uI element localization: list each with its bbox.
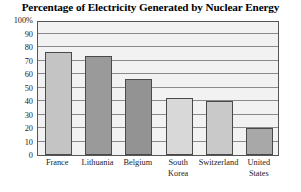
y-tick-label: 70: [25, 57, 33, 65]
y-tick-label: 30: [25, 111, 33, 119]
x-axis: FranceLithuaniaBelgiumSouthKoreaSwitzerl…: [37, 158, 279, 192]
bar-south-korea: [166, 98, 193, 155]
y-tick-label: 20: [25, 125, 33, 133]
y-tick-label: 0: [29, 152, 33, 160]
bar-belgium: [125, 79, 152, 155]
x-tick-label: Belgium: [118, 158, 158, 169]
y-tick-label: 80: [25, 44, 33, 52]
y-tick-label: 10: [25, 138, 33, 146]
bar-switzerland: [206, 101, 233, 155]
bar-chart-figure: Percentage of Electricity Generated by N…: [0, 0, 301, 192]
bar-lithuania: [85, 56, 112, 155]
x-tick-label: Switzerland: [198, 158, 238, 169]
y-axis: 0102030405060708090100%: [0, 21, 35, 156]
y-tick-label: 60: [25, 71, 33, 79]
bars-layer: [38, 22, 278, 155]
bar-united-states: [246, 128, 273, 155]
y-tick-label: 50: [25, 84, 33, 92]
chart-title: Percentage of Electricity Generated by N…: [0, 1, 301, 13]
x-tick-label: France: [37, 158, 77, 169]
bar-france: [45, 52, 72, 155]
x-tick-label: UnitedStates: [239, 158, 279, 179]
x-tick-label: SouthKorea: [158, 158, 198, 179]
x-tick-label: Lithuania: [77, 158, 117, 169]
y-tick-label: 40: [25, 98, 33, 106]
plot-area: [37, 21, 279, 156]
y-tick-label: 90: [25, 30, 33, 38]
y-tick-label: 100%: [14, 17, 33, 25]
